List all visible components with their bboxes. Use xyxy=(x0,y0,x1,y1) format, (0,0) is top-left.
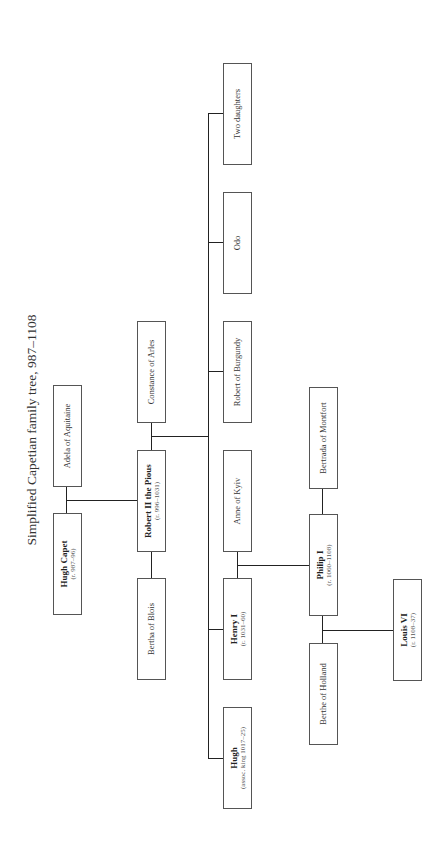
person-name: Bertha of Blois xyxy=(147,603,157,655)
person-name: Robert of Burgundy xyxy=(233,338,243,406)
person-name: Hugh Capet xyxy=(58,541,68,588)
sibling-link-henry-i xyxy=(208,629,223,630)
person-name: Louis VI xyxy=(398,613,408,647)
diagram-title: Simplified Capetian family tree, 987–110… xyxy=(24,315,40,546)
sibling-link-hugh xyxy=(208,758,223,759)
sibling-spine xyxy=(208,113,209,759)
person-name: Anne of Kyiv xyxy=(233,478,243,525)
person-hugh: Hugh(assoc. king 1017–25) xyxy=(223,707,252,809)
person-name: Two daughters xyxy=(233,89,243,139)
person-name: Berthe of Holland xyxy=(319,663,329,724)
marriage-line-philip-bertrada xyxy=(322,489,323,514)
person-berthe-of-holland: Berthe of Holland xyxy=(309,643,338,745)
sibling-link-two-daughters xyxy=(208,113,223,114)
person-name: Bertrada of Montfort xyxy=(319,402,329,473)
person-hugh-capet: Hugh Capet(r. 987–96) xyxy=(53,513,82,615)
descent-line-philip-i xyxy=(237,565,310,566)
sibling-link-robert-burgundy xyxy=(208,371,223,372)
person-adela-of-aquitaine: Adela of Aquitaine xyxy=(53,385,82,487)
person-reign: (assoc. king 1017–25) xyxy=(239,727,247,789)
person-name: Henry I xyxy=(228,612,238,647)
person-anne-of-kyiv: Anne of Kyiv xyxy=(223,450,252,552)
person-reign: (r. 987–96) xyxy=(69,541,77,588)
person-name: Odo xyxy=(233,236,243,251)
person-two-daughters: Two daughters xyxy=(223,63,252,165)
person-name: Philip I xyxy=(314,544,324,585)
person-robert-of-burgundy: Robert of Burgundy xyxy=(223,321,252,423)
person-philip-i: Philip I(r. 1060–1108) xyxy=(309,514,338,616)
marriage-line-robert-bertha xyxy=(151,552,152,578)
person-henry-i: Henry I(r. 1031–60) xyxy=(223,578,252,680)
person-name: Robert II the Pious xyxy=(142,464,152,538)
person-constance-of-arles: Constance of Arles xyxy=(137,321,166,423)
person-name: Constance of Arles xyxy=(147,340,157,405)
person-reign: (r. 996–1031) xyxy=(153,464,161,538)
descent-line-robert-ii xyxy=(66,500,137,501)
person-reign: (r. 1060–1108) xyxy=(325,544,333,585)
person-name: Hugh xyxy=(228,727,238,789)
person-reign: (r. 1108–37) xyxy=(409,613,417,647)
person-odo: Odo xyxy=(223,192,252,294)
descent-line-robert-children xyxy=(151,436,209,437)
person-reign: (r. 1031–60) xyxy=(239,612,247,647)
person-robert-ii-the-pious: Robert II the Pious(r. 996–1031) xyxy=(137,450,166,552)
descent-line-louis-vi xyxy=(322,630,393,631)
person-name: Adela of Aquitaine xyxy=(63,404,73,469)
person-bertrada-of-montfort: Bertrada of Montfort xyxy=(309,387,338,489)
person-bertha-of-blois: Bertha of Blois xyxy=(137,578,166,680)
person-louis-vi: Louis VI(r. 1108–37) xyxy=(393,579,422,681)
sibling-link-odo xyxy=(208,242,223,243)
